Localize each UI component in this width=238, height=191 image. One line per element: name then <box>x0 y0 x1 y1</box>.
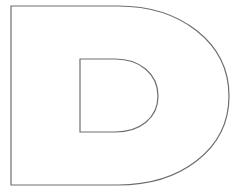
letter-d-graphic <box>0 0 238 191</box>
letter-d-outline-figure: D <box>0 0 238 191</box>
letter-d-inner-counter <box>80 59 158 132</box>
